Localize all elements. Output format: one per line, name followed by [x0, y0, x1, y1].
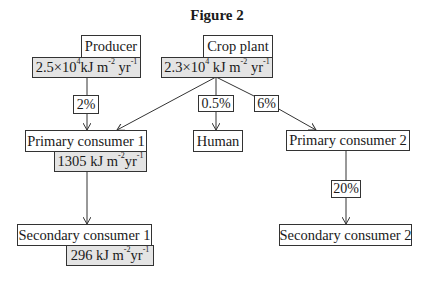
node-human: Human	[193, 130, 243, 152]
node-sc1-label: Secondary consumer 1	[18, 228, 150, 243]
node-secondary-consumer-2: Secondary consumer 2	[279, 224, 412, 246]
node-secondary-consumer-1-value: 296 kJ m-2yr-1	[66, 245, 154, 266]
crop-value-mantissa: 2.3×10	[164, 60, 205, 75]
node-primary-consumer-1-value: 1305 kJ m-2yr-1	[54, 151, 147, 172]
node-producer-value: 2.5×104kJ m-2 yr-1	[32, 57, 141, 78]
crop-unit-exp2: -1	[263, 58, 270, 66]
node-crop-plant: Crop plant	[203, 35, 273, 58]
node-primary-consumer-1: Primary consumer 1	[25, 130, 147, 152]
sc1-value-number: 296 kJ m	[71, 248, 124, 263]
sc1-value-unit-yr: yr	[131, 248, 143, 263]
pc1-unit-exp1: -2	[118, 152, 125, 160]
sc1-unit-exp1: -2	[124, 246, 131, 254]
edge-label-2pct: 2%	[73, 95, 99, 114]
edge-label-0-5pct-text: 0.5%	[201, 97, 230, 111]
producer-value-mantissa: 2.5×10	[36, 60, 77, 75]
edge-crop-pc2-top	[216, 77, 256, 97]
node-human-label: Human	[197, 134, 240, 149]
node-pc1-label: Primary consumer 1	[27, 134, 145, 149]
node-sc2-label: Secondary consumer 2	[279, 228, 411, 243]
node-secondary-consumer-1: Secondary consumer 1	[17, 224, 152, 246]
node-producer: Producer	[81, 35, 141, 58]
edge-label-20pct: 20%	[331, 180, 361, 198]
producer-unit-exp1: -2	[108, 58, 115, 66]
crop-value-unit-yr: yr	[251, 60, 263, 75]
node-pc2-label: Primary consumer 2	[289, 133, 407, 148]
edge-label-0-5pct: 0.5%	[198, 95, 234, 112]
pc1-unit-exp2: -1	[137, 152, 144, 160]
node-crop-plant-label: Crop plant	[207, 39, 269, 54]
crop-value-exp: 4	[205, 58, 209, 66]
node-producer-label: Producer	[85, 39, 137, 54]
edge-label-2pct-text: 2%	[77, 98, 96, 112]
producer-unit-exp2: -1	[131, 58, 138, 66]
producer-value-unit-yr: yr	[119, 60, 131, 75]
node-primary-consumer-2: Primary consumer 2	[286, 130, 410, 151]
crop-value-unit: kJ m	[209, 60, 240, 75]
edge-label-6pct-text: 6%	[257, 97, 276, 111]
producer-value-exp: 4	[76, 58, 80, 66]
edge-label-6pct: 6%	[254, 95, 279, 112]
edge-crop-pc2	[277, 108, 316, 130]
crop-unit-exp1: -2	[241, 58, 248, 66]
node-crop-plant-value: 2.3×104 kJ m-2 yr-1	[161, 57, 273, 78]
pc1-value-unit-yr: yr	[125, 154, 137, 169]
producer-value-unit: kJ m	[80, 60, 108, 75]
sc1-unit-exp2: -1	[143, 246, 150, 254]
pc1-value-number: 1305 kJ m	[58, 154, 118, 169]
edge-label-20pct-text: 20%	[333, 182, 359, 196]
